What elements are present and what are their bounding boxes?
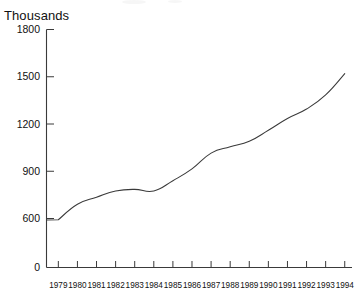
x-axis-tick-label: 1992 [297, 281, 315, 290]
axes [47, 30, 353, 268]
x-axis-tick-label: 1980 [68, 281, 86, 290]
x-axis-tick-label: 1984 [145, 281, 163, 290]
x-axis-tick-label: 1986 [183, 281, 201, 290]
data-series-line [47, 74, 345, 220]
x-axis-tick-label: 1989 [240, 281, 258, 290]
x-axis-tick-label: 1982 [107, 281, 125, 290]
y-axis-ticks [47, 30, 55, 268]
plot-area [0, 0, 359, 296]
x-axis-tick-label: 1991 [278, 281, 296, 290]
line-chart: Thousands 1800150012009006000 1979198019… [0, 0, 359, 296]
x-axis-tick-label: 1990 [259, 281, 277, 290]
x-axis-tick-label: 1994 [336, 281, 354, 290]
x-axis-tick-label: 1983 [126, 281, 144, 290]
x-axis-tick-labels: 1979198019811982198319841985198619871988… [0, 281, 359, 295]
x-axis-tick-label: 1979 [49, 281, 67, 290]
x-axis-tick-label: 1981 [87, 281, 105, 290]
x-axis-tick-label: 1985 [164, 281, 182, 290]
x-axis-tick-label: 1988 [221, 281, 239, 290]
x-axis-tick-label: 1987 [202, 281, 220, 290]
x-axis-tick-label: 1993 [317, 281, 335, 290]
x-axis-ticks [58, 261, 344, 268]
